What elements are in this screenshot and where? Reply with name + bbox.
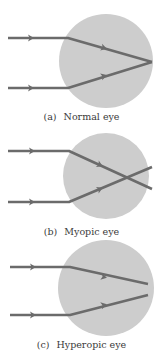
caption-hyperopic-eye: (c)Hyperopic eye xyxy=(0,339,163,350)
caption-tag: (a) xyxy=(44,111,57,122)
caption-text: Normal eye xyxy=(64,111,120,122)
caption-text: Myopic eye xyxy=(64,226,119,237)
eyeball-shape xyxy=(59,14,153,108)
caption-tag: (b) xyxy=(44,226,58,237)
panel-normal-eye xyxy=(8,14,153,108)
eyeball-shape xyxy=(58,240,154,336)
caption-tag: (c) xyxy=(37,339,50,350)
panel-myopic-eye xyxy=(8,133,152,219)
caption-normal-eye: (a)Normal eye xyxy=(0,111,163,122)
caption-myopic-eye: (b)Myopic eye xyxy=(0,226,163,237)
eye-diagram xyxy=(0,0,163,357)
eyeball-shape xyxy=(63,133,149,219)
caption-text: Hyperopic eye xyxy=(57,339,127,350)
panel-hyperopic-eye xyxy=(10,240,154,336)
